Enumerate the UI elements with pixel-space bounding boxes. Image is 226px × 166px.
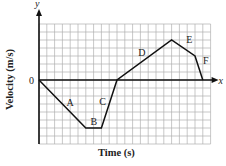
segment-label-d: D	[138, 47, 145, 58]
y-axis-label: Velocity (m/s)	[4, 35, 15, 125]
origin-label: 0	[29, 75, 34, 86]
segment-label-e: E	[186, 34, 192, 45]
y-axis-arrow-icon	[36, 9, 42, 16]
x-axis-arrow-icon	[212, 77, 219, 83]
velocity-time-chart: yx0ABCDEF	[0, 0, 226, 166]
segment-label-c: C	[99, 96, 106, 107]
segment-label-f: F	[203, 55, 209, 66]
velocity-line	[39, 40, 203, 128]
y-axis-name: y	[34, 0, 40, 9]
x-axis-label: Time (s)	[98, 147, 135, 158]
x-axis-name: x	[218, 75, 224, 86]
segment-label-b: B	[91, 116, 98, 127]
segment-label-a: A	[66, 97, 74, 108]
